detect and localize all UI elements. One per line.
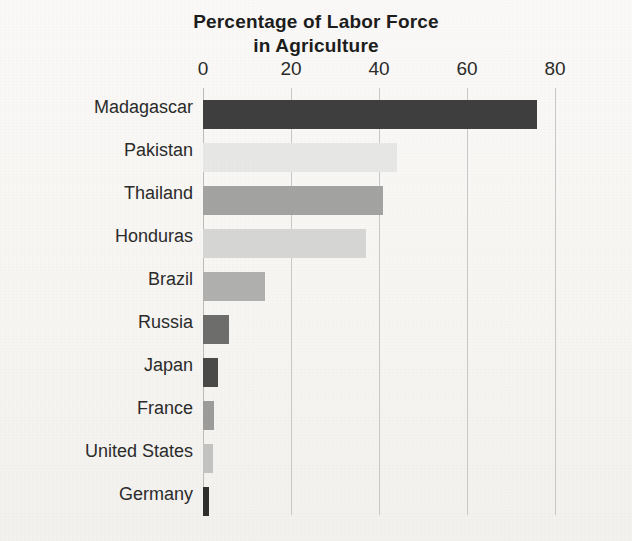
bar-japan (203, 358, 218, 387)
bar-united-states (203, 444, 213, 473)
bar-chart-figure: Percentage of Labor Force in Agriculture… (0, 0, 632, 541)
bar-germany (203, 487, 209, 516)
bar-row: Thailand (0, 174, 632, 217)
bar-row: Germany (0, 475, 632, 518)
category-label-germany: Germany (0, 484, 193, 505)
chart-title-line-2: in Agriculture (0, 34, 632, 58)
x-tick-label-80: 80 (525, 58, 585, 80)
bar-honduras (203, 229, 366, 258)
x-tick-label-40: 40 (349, 58, 409, 80)
bar-thailand (203, 186, 383, 215)
category-label-thailand: Thailand (0, 183, 193, 204)
bars-layer: MadagascarPakistanThailandHondurasBrazil… (0, 88, 632, 515)
bar-row: Pakistan (0, 131, 632, 174)
category-label-pakistan: Pakistan (0, 140, 193, 161)
bar-madagascar (203, 100, 537, 129)
bar-row: Madagascar (0, 88, 632, 131)
x-axis-tick-labels: 020406080 (0, 58, 632, 86)
bar-row: Brazil (0, 260, 632, 303)
bar-row: Russia (0, 303, 632, 346)
bar-pakistan (203, 143, 397, 172)
bar-row: France (0, 389, 632, 432)
category-label-brazil: Brazil (0, 269, 193, 290)
chart-title: Percentage of Labor Force in Agriculture (0, 10, 632, 58)
category-label-russia: Russia (0, 312, 193, 333)
bar-brazil (203, 272, 265, 301)
bar-row: United States (0, 432, 632, 475)
chart-title-line-1: Percentage of Labor Force (0, 10, 632, 34)
bar-france (203, 401, 214, 430)
category-label-japan: Japan (0, 355, 193, 376)
bar-russia (203, 315, 229, 344)
x-tick-label-20: 20 (261, 58, 321, 80)
x-tick-label-60: 60 (437, 58, 497, 80)
category-label-honduras: Honduras (0, 226, 193, 247)
category-label-france: France (0, 398, 193, 419)
category-label-madagascar: Madagascar (0, 97, 193, 118)
x-tick-label-0: 0 (173, 58, 233, 80)
bar-row: Honduras (0, 217, 632, 260)
bar-row: Japan (0, 346, 632, 389)
category-label-united-states: United States (0, 441, 193, 462)
